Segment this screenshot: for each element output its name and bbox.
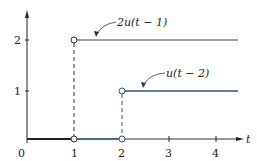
origin-label: 0: [18, 147, 25, 160]
open-circle-t1-top: [71, 37, 77, 43]
leader-arrow-icon: [94, 31, 99, 37]
open-circle-t2-top: [119, 88, 125, 94]
open-circle-t1-bottom: [71, 136, 77, 142]
step-function-chart: 2u(t − 1) u(t − 2) 2 1 0 1 2 3 4 t: [0, 0, 257, 161]
leader-u: [144, 73, 165, 84]
leader-arrow-icon: [141, 82, 146, 88]
x-label-3: 3: [165, 147, 172, 160]
x-axis-arrow-icon: [236, 137, 244, 141]
x-label-1: 1: [71, 147, 78, 160]
y-label-2: 2: [14, 34, 21, 47]
series2-label: u(t − 2): [166, 67, 209, 80]
open-circle-t2-bottom: [119, 136, 125, 142]
x-label-4: 4: [212, 147, 219, 160]
x-label-2: 2: [118, 147, 125, 160]
leader-2u: [97, 22, 116, 34]
y-label-1: 1: [14, 85, 21, 98]
series1-label: 2u(t − 1): [116, 16, 167, 29]
x-axis-label: t: [246, 133, 251, 146]
y-axis-arrow-icon: [25, 10, 29, 18]
